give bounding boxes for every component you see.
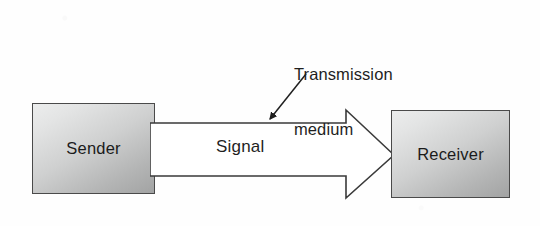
signal-label: Signal: [216, 137, 264, 156]
diagram-canvas: Sender Signal Receiver Transmission medi…: [0, 0, 540, 226]
node-receiver-label: Receiver: [417, 146, 484, 163]
transmission-medium-line-1: Transmission: [294, 65, 393, 83]
transmission-medium-label: Transmission medium: [294, 28, 393, 176]
node-sender[interactable]: Sender: [32, 103, 155, 194]
node-sender-label: Sender: [66, 140, 120, 157]
transmission-medium-line-2: medium: [294, 120, 393, 138]
node-receiver[interactable]: Receiver: [391, 110, 510, 198]
